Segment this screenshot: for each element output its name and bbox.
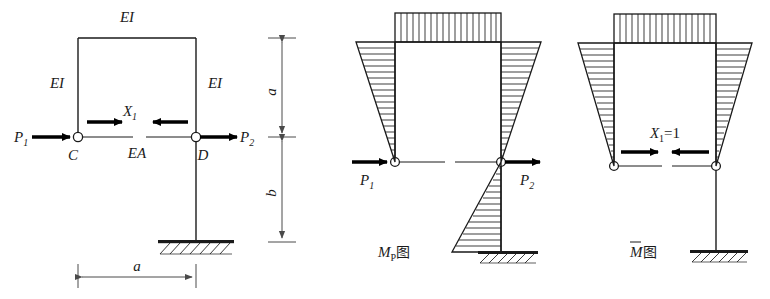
- mp-moment-lower-right-column: [452, 162, 501, 252]
- dimension-vertical: a b: [263, 38, 296, 242]
- mbar-moment-upper-right-column: [716, 43, 752, 166]
- hinge-d: [191, 132, 200, 141]
- fixed-support-base: [158, 240, 234, 254]
- label-dim-height-lower: b: [263, 189, 279, 197]
- mp-moment-upper-left-column: [356, 42, 395, 162]
- label-dim-height-upper: a: [263, 88, 279, 96]
- mbar-caption-text: M图: [629, 244, 657, 260]
- mp-moment-upper-right-column: [501, 42, 541, 162]
- label-left-column-stiffness: EI: [49, 75, 65, 91]
- figure-canvas: EI EI EI EA X1 P1 P2 C D a b: [0, 0, 770, 299]
- mbar-moment-upper-left-column: [578, 43, 614, 166]
- hinge-c: [73, 132, 82, 141]
- label-right-column-stiffness: EI: [207, 75, 223, 91]
- panel-mp-diagram: P1 P2 MP图: [352, 13, 541, 263]
- mp-fixed-support-base: [478, 251, 538, 263]
- dimension-horizontal: a: [78, 258, 196, 288]
- mp-diagram-caption: MP图: [377, 244, 410, 263]
- label-joint-d: D: [197, 147, 209, 163]
- label-tie-bar-stiffness: EA: [127, 145, 147, 161]
- mbar-label-unit-force: X1=1: [649, 125, 680, 144]
- label-load-p1: P1: [13, 129, 28, 148]
- structural-diagram-figure: EI EI EI EA X1 P1 P2 C D a b: [0, 0, 770, 299]
- label-redundant-x1: X1: [122, 103, 137, 122]
- label-load-p2: P2: [239, 129, 254, 148]
- mbar-moment-top-beam: [614, 14, 716, 43]
- mbar-diagram-caption: M图: [629, 242, 657, 260]
- mp-label-load-p2: P2: [519, 172, 534, 191]
- panel-primary-frame: EI EI EI EA X1 P1 P2 C D a b: [13, 9, 296, 288]
- label-dim-width: a: [133, 258, 141, 274]
- label-joint-c: C: [68, 147, 79, 163]
- panel-mbar-diagram: X1=1 M图: [578, 14, 752, 262]
- mp-moment-top-beam: [395, 13, 501, 42]
- mbar-fixed-support-base: [690, 250, 748, 262]
- label-top-beam-stiffness: EI: [119, 9, 135, 25]
- mp-label-load-p1: P1: [359, 172, 374, 191]
